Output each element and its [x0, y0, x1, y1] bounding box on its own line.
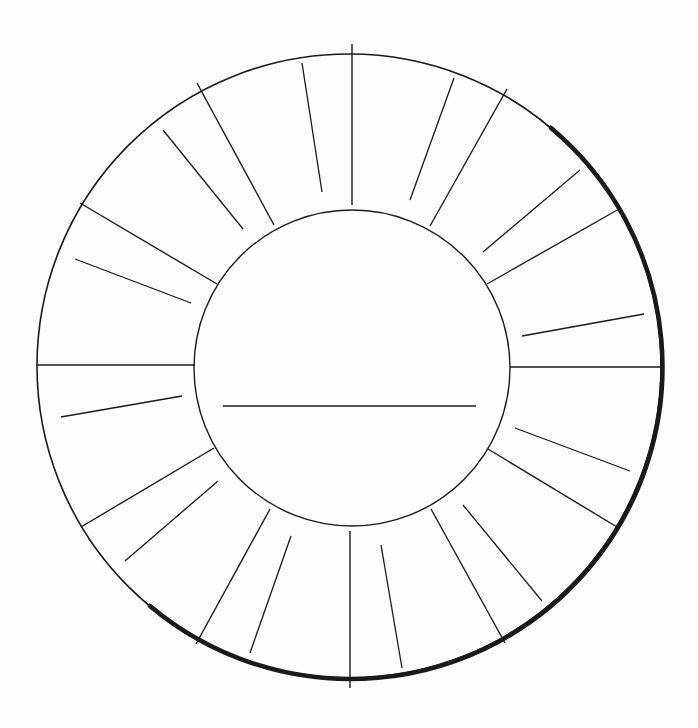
outer-shadow-arc — [150, 128, 663, 679]
segment-divider-6 — [431, 509, 505, 643]
writing-line-2 — [410, 78, 454, 200]
wheel-worksheet — [0, 0, 698, 728]
writing-line-11 — [75, 259, 191, 303]
segment-divider-11 — [80, 203, 217, 284]
segment-divider-5 — [488, 449, 617, 527]
segment-divider-8 — [196, 509, 270, 644]
writing-line-6 — [463, 505, 542, 601]
writing-line-10 — [61, 396, 182, 417]
segment-divider-9 — [81, 448, 214, 527]
writing-line-1 — [302, 63, 322, 192]
writing-line-7 — [381, 545, 402, 668]
writing-line-4 — [522, 314, 644, 336]
segment-divider-2 — [430, 89, 507, 226]
segment-divider-12 — [197, 83, 274, 225]
segment-divider-3 — [487, 209, 619, 284]
writing-line-5 — [515, 428, 630, 471]
wheel-diagram — [0, 0, 698, 728]
inner-circle — [194, 210, 510, 526]
outer-circle — [37, 54, 661, 678]
writing-line-8 — [250, 536, 291, 653]
shadow-arc — [150, 128, 663, 679]
